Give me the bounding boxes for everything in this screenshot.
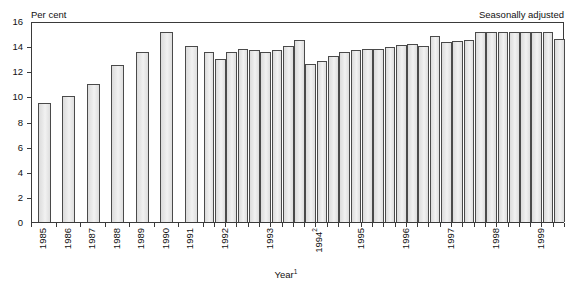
bar-slot — [215, 23, 226, 222]
bar — [362, 49, 373, 222]
bar — [185, 46, 198, 222]
x-tick-mark — [519, 223, 520, 227]
x-tick-mark — [440, 223, 441, 227]
x-tick-mark — [203, 223, 204, 227]
bar-slot — [554, 23, 565, 222]
x-axis-title-superscript: 1 — [294, 268, 298, 275]
bar — [238, 49, 249, 222]
x-tick-mark — [451, 223, 452, 227]
bar-slot — [350, 23, 361, 222]
x-tick-mark — [214, 223, 215, 227]
bar-slot — [418, 23, 429, 222]
bar-slot — [396, 23, 407, 222]
chart-unit-note: Per cent — [31, 9, 66, 20]
chart-adjustment-note: Seasonally adjusted — [479, 9, 564, 20]
bar — [396, 45, 407, 222]
bar-slot — [328, 23, 339, 222]
x-tick-label: 1985 — [38, 228, 48, 249]
bar — [249, 50, 260, 222]
bar — [531, 32, 542, 222]
x-tick-mark — [178, 223, 179, 227]
x-tick-label: 1987 — [87, 228, 97, 249]
y-tick-label: 14 — [12, 42, 23, 52]
bar-slot — [384, 23, 395, 222]
x-axis-ticks — [31, 223, 564, 227]
x-tick-label: 1997 — [446, 228, 456, 249]
bar — [283, 46, 294, 222]
bar-slot — [204, 23, 215, 222]
x-tick-label: 1999 — [536, 228, 546, 249]
x-tick-label: 1989 — [136, 228, 146, 249]
bar — [418, 46, 429, 222]
x-tick-mark — [270, 223, 271, 227]
x-tick-label: 1988 — [112, 228, 122, 249]
x-tick-mark — [31, 223, 32, 227]
x-tick-mark — [406, 223, 407, 227]
bar — [226, 52, 237, 222]
bar — [554, 39, 565, 222]
bar-slot — [316, 23, 327, 222]
bar-slot — [452, 23, 463, 222]
bar-slot — [294, 23, 305, 222]
bar-slot — [81, 23, 106, 222]
y-tick-label: 10 — [12, 93, 23, 103]
x-tick-label: 1993 — [265, 228, 275, 249]
bar-slot — [441, 23, 452, 222]
bar — [543, 32, 554, 222]
bar — [136, 52, 149, 222]
bar-slot — [237, 23, 248, 222]
x-tick-mark — [105, 223, 106, 227]
x-tick-mark — [372, 223, 373, 227]
y-tick-label: 16 — [12, 17, 23, 27]
bar-slot — [531, 23, 542, 222]
bar-slot — [249, 23, 260, 222]
bar-slot — [509, 23, 520, 222]
bar-slot — [57, 23, 82, 222]
x-axis-title: Year1 — [0, 268, 572, 280]
bar-slot — [283, 23, 294, 222]
bar — [339, 52, 350, 222]
bar — [87, 84, 100, 222]
x-tick-mark — [361, 223, 362, 227]
bar — [62, 96, 75, 222]
x-tick-label: 1992 — [220, 228, 230, 249]
bar-slot — [179, 23, 204, 222]
y-tick-label: 4 — [18, 168, 23, 178]
x-tick-mark — [564, 223, 565, 227]
x-tick-mark — [338, 223, 339, 227]
x-tick-mark — [154, 223, 155, 227]
bar — [452, 41, 463, 222]
bar — [486, 32, 497, 222]
x-tick-mark — [417, 223, 418, 227]
bar-slot — [463, 23, 474, 222]
bar — [464, 40, 475, 222]
x-tick-mark — [474, 223, 475, 227]
x-tick-label: 1996 — [401, 228, 411, 249]
x-tick-mark — [496, 223, 497, 227]
bar-slot — [305, 23, 316, 222]
y-tick-label: 6 — [18, 143, 23, 153]
bar-chart: Per cent Seasonally adjusted 02468101214… — [0, 0, 572, 286]
bar-slot — [260, 23, 271, 222]
bar-slot — [373, 23, 384, 222]
bar — [204, 52, 215, 222]
bar-slot — [155, 23, 180, 222]
bar-slot — [542, 23, 553, 222]
y-tick-label: 12 — [12, 68, 23, 78]
bar — [520, 32, 531, 222]
bar — [317, 61, 328, 222]
x-tick-mark — [383, 223, 384, 227]
bar-slot — [429, 23, 440, 222]
bar — [111, 65, 124, 222]
bar — [328, 56, 339, 222]
y-tick-label: 8 — [18, 118, 23, 128]
bar-slot — [130, 23, 155, 222]
x-tick-mark — [327, 223, 328, 227]
y-axis: 0246810121416 — [0, 22, 31, 223]
bar — [441, 42, 452, 222]
bar — [407, 44, 418, 222]
x-tick-mark — [541, 223, 542, 227]
bar — [373, 49, 384, 222]
x-tick-mark — [462, 223, 463, 227]
x-tick-mark — [225, 223, 226, 227]
